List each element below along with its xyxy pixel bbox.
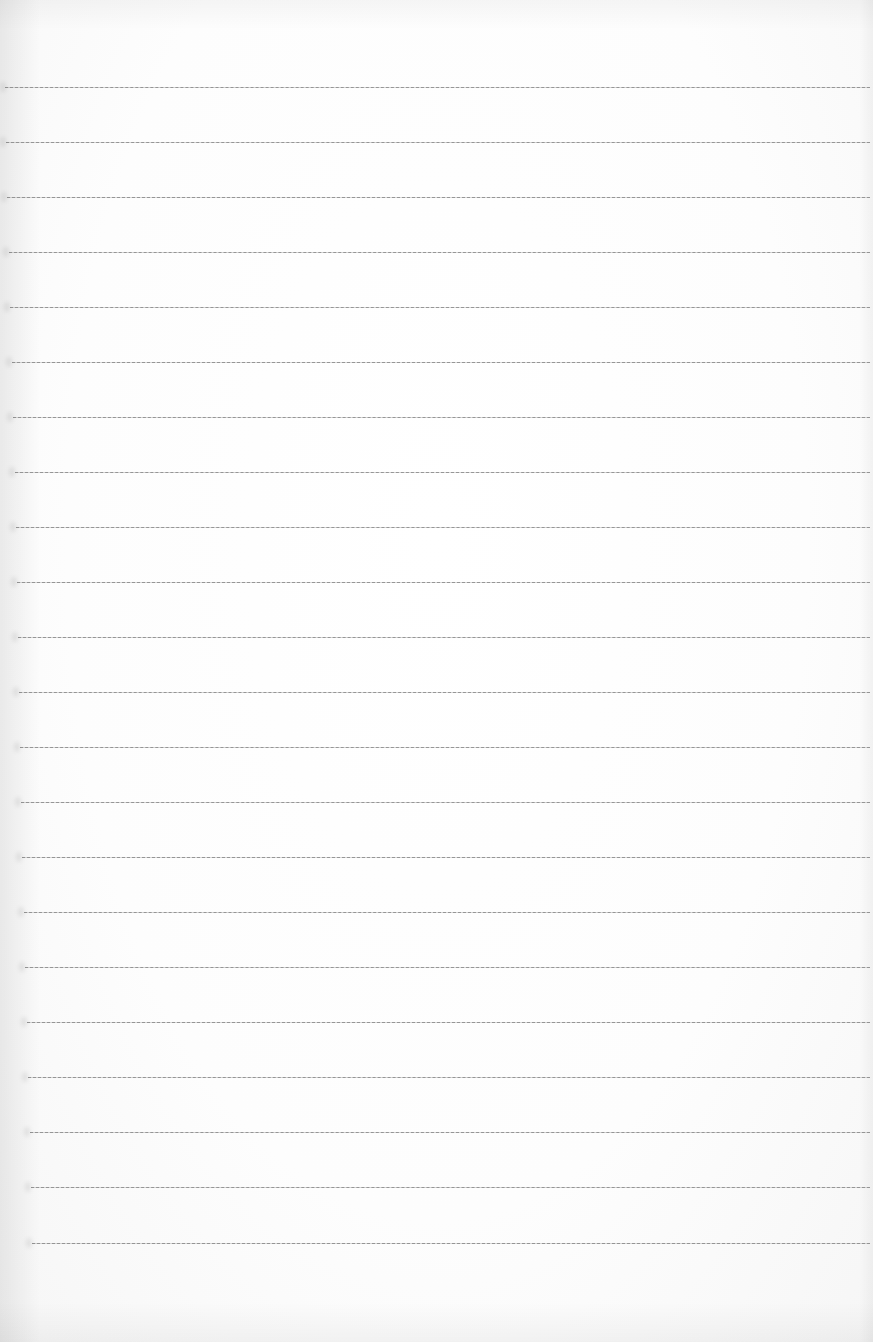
ruled-line (25, 967, 870, 969)
line-edge-shadow (19, 962, 25, 972)
top-edge-shadow (0, 0, 873, 30)
line-edge-shadow (25, 1182, 31, 1192)
line-edge-shadow (6, 357, 12, 367)
ruled-line (19, 692, 870, 694)
left-edge-shadow (0, 0, 40, 1342)
ruled-line (13, 417, 870, 419)
ruled-line (20, 747, 870, 749)
ruled-line (31, 1187, 870, 1189)
ruled-line (6, 142, 870, 144)
ruled-line (18, 637, 870, 639)
line-edge-shadow (12, 632, 18, 642)
line-edge-shadow (15, 797, 21, 807)
line-edge-shadow (13, 687, 19, 697)
ruled-line (22, 857, 870, 859)
bottom-edge-shadow (0, 1302, 873, 1342)
line-edge-shadow (0, 82, 6, 92)
ruled-line (10, 307, 870, 309)
ruled-line (5, 87, 870, 89)
ruled-line (7, 197, 870, 199)
line-edge-shadow (22, 1072, 28, 1082)
ruled-line (24, 912, 870, 914)
line-edge-shadow (3, 247, 9, 257)
line-edge-shadow (24, 1127, 30, 1137)
line-edge-shadow (7, 412, 13, 422)
ruled-line (15, 472, 870, 474)
line-edge-shadow (4, 302, 10, 312)
ruled-line (21, 802, 870, 804)
line-edge-shadow (11, 577, 17, 587)
line-edge-shadow (14, 742, 20, 752)
ruled-line (9, 252, 870, 254)
line-edge-shadow (21, 1017, 27, 1027)
right-edge-shadow (859, 0, 873, 1342)
ruled-line (12, 362, 870, 364)
ruled-line (30, 1132, 870, 1134)
ruled-line (16, 527, 870, 529)
line-edge-shadow (26, 1238, 32, 1248)
line-edge-shadow (9, 467, 15, 477)
line-edge-shadow (1, 192, 7, 202)
ruled-line (17, 582, 870, 584)
ruled-line (27, 1022, 870, 1024)
ruled-line (28, 1077, 870, 1079)
line-edge-shadow (0, 137, 6, 147)
line-edge-shadow (18, 907, 24, 917)
lined-paper-page (0, 0, 873, 1342)
line-edge-shadow (10, 522, 16, 532)
line-edge-shadow (16, 852, 22, 862)
ruled-line (32, 1243, 870, 1245)
